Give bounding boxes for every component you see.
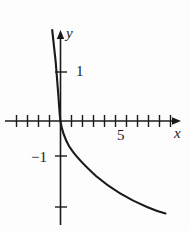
- x-axis-arrowhead: [172, 117, 181, 124]
- coordinate-plane-svg: [0, 0, 190, 231]
- y-axis-arrowhead: [57, 30, 64, 39]
- y-tick-label-negative-one: −1: [31, 150, 47, 165]
- x-tick-label-five: 5: [117, 128, 125, 143]
- x-axis-label: x: [174, 126, 181, 141]
- y-tick-label-one: 1: [76, 64, 84, 79]
- y-axis-label: y: [66, 26, 73, 41]
- graph-figure: y x 1 −1 5: [0, 0, 190, 231]
